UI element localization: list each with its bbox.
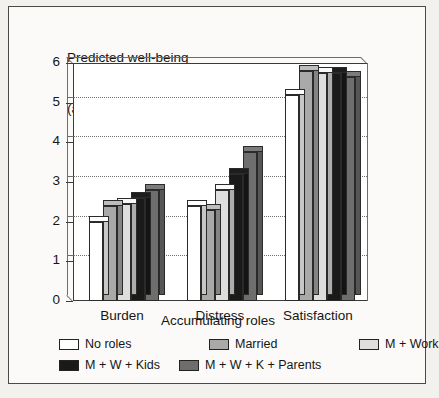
y-tick-label: 1 [34, 252, 60, 267]
plot-top-border [73, 63, 367, 64]
bar-front-face [89, 222, 103, 301]
legend-item: Married [209, 337, 277, 351]
legend-row-2: M + W + KidsM + W + K + Parents [59, 358, 399, 379]
y-tick-back [67, 176, 73, 177]
legend-item: M + Work [359, 337, 439, 351]
bar-side-face [243, 168, 249, 295]
legend-item: No roles [59, 337, 132, 351]
bar-side-face [341, 67, 347, 295]
legend-swatch [59, 360, 79, 371]
y-tick [66, 142, 73, 143]
legend-label: M + W + Kids [85, 358, 160, 372]
bar-side-face [117, 200, 123, 295]
bar-side-face [299, 89, 305, 295]
y-tick-back [67, 216, 73, 217]
legend-swatch [209, 339, 229, 350]
y-tick-back [67, 255, 73, 256]
bar-side-face [229, 184, 235, 295]
plot-area: 0123456 BurdenDistressSatisfaction [67, 57, 367, 301]
chart-legend: No rolesMarriedM + Work M + W + KidsM + … [59, 337, 399, 379]
y-tick-label: 5 [34, 94, 60, 109]
legend-label: M + Work [385, 337, 439, 351]
bar-side-face [145, 192, 151, 295]
y-tick-back [67, 136, 73, 137]
legend-item: M + W + K + Parents [179, 358, 321, 372]
x-axis-title: Accumulating roles [9, 313, 427, 328]
legend-row-1: No rolesMarriedM + Work [59, 337, 399, 358]
bar [187, 200, 201, 301]
bar-front-face [187, 206, 201, 301]
bar-side-face [215, 204, 221, 295]
y-tick [66, 261, 73, 262]
y-tick [66, 182, 73, 183]
bar-side-face [257, 146, 263, 295]
bar [89, 216, 103, 301]
legend-item: M + W + Kids [59, 358, 160, 372]
y-tick [66, 103, 73, 104]
y-tick-label: 6 [34, 54, 60, 69]
bar-side-face [103, 216, 109, 295]
y-tick-back [67, 97, 73, 98]
legend-swatch [359, 339, 379, 350]
plot-right-border [367, 63, 368, 301]
y-tick-label: 2 [34, 213, 60, 228]
y-tick-label: 4 [34, 133, 60, 148]
legend-swatch [179, 360, 199, 371]
bar-side-face [201, 200, 207, 295]
legend-label: M + W + K + Parents [205, 358, 321, 372]
bar-side-face [327, 67, 333, 295]
legend-swatch [59, 339, 79, 350]
bar-side-face [313, 65, 319, 295]
y-tick-label: 3 [34, 173, 60, 188]
bar-side-face [131, 198, 137, 295]
bar-front-face [285, 95, 299, 301]
bar-side-face [159, 184, 165, 295]
bar [285, 89, 299, 301]
y-tick [66, 222, 73, 223]
y-tick-label: 0 [34, 292, 60, 307]
legend-label: No roles [85, 337, 132, 351]
chart-figure: Predicted well-being (assuming average v… [8, 6, 426, 384]
bar-side-face [355, 71, 361, 295]
legend-label: Married [235, 337, 277, 351]
